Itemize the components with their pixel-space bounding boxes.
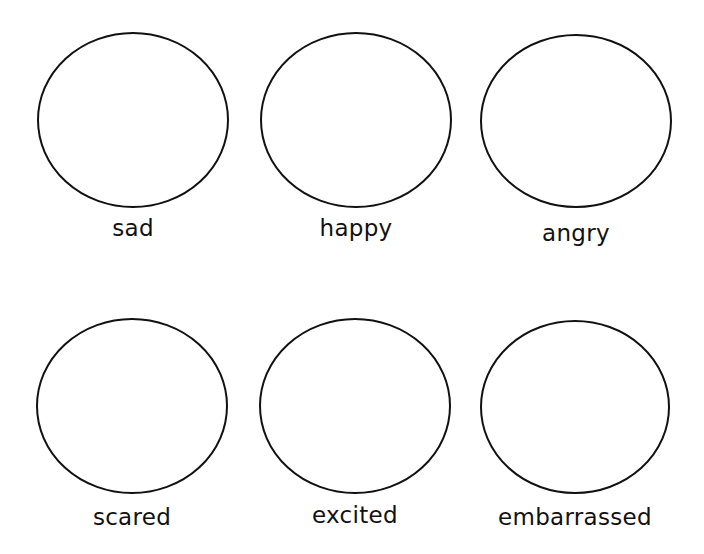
label-happy: happy (256, 214, 456, 242)
face-circle-happy[interactable] (261, 33, 451, 207)
emotions-worksheet: sad happy angry scared excited embarrass… (0, 0, 704, 554)
label-sad: sad (33, 214, 233, 242)
label-angry: angry (476, 219, 676, 247)
label-scared: scared (32, 503, 232, 531)
face-circle-angry[interactable] (481, 35, 671, 207)
label-excited: excited (255, 501, 455, 529)
label-embarrassed: embarrassed (475, 503, 675, 531)
face-circle-embarrassed[interactable] (481, 321, 669, 493)
face-circle-scared[interactable] (37, 319, 227, 493)
face-circles (0, 0, 704, 554)
face-circle-sad[interactable] (38, 33, 228, 207)
face-circle-excited[interactable] (260, 319, 450, 493)
